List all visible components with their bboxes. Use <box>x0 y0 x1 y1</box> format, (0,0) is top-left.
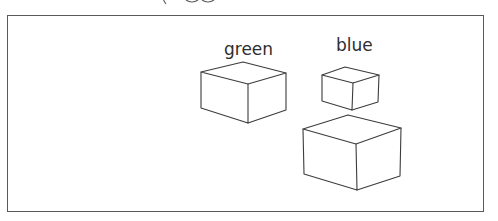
box-unlabeled-top-face <box>303 115 401 144</box>
box-unlabeled <box>303 115 401 190</box>
box-green-top-face <box>201 62 286 84</box>
box-blue-side-face <box>352 75 379 110</box>
box-green <box>201 62 286 123</box>
box-blue-front-face <box>322 75 353 110</box>
label-green: green <box>224 39 273 59</box>
box-blue <box>322 67 379 110</box>
box-green-front-face <box>201 72 248 123</box>
label-blue: blue <box>336 35 373 55</box>
box-blue-top-face <box>322 67 379 83</box>
box-green-side-face <box>248 73 286 123</box>
box-unlabeled-side-face <box>357 128 401 190</box>
box-diagram: green blue <box>0 0 498 221</box>
box-unlabeled-front-face <box>303 129 357 190</box>
